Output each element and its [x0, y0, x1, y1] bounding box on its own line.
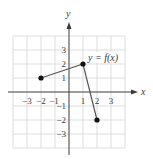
x-axis-arrow-icon: [131, 90, 138, 95]
x-tick-label: 1: [81, 96, 86, 106]
y-tick-label: −3: [56, 129, 66, 139]
y-axis-arrow-icon: [67, 22, 72, 29]
x-tick-label: 3: [109, 96, 114, 106]
y-tick-label: −1: [56, 101, 66, 111]
function-label: y = f(x): [87, 52, 119, 64]
point-right-endpoint: [94, 117, 99, 122]
x-tick-label: −3: [22, 96, 32, 106]
function-graph: x y −3 −2 −1 1 2 3 3 2 1 −1 −2 −3 y = f(…: [0, 0, 153, 159]
point-vertex: [80, 61, 85, 66]
y-tick-label: 2: [62, 59, 67, 69]
y-tick-label: 1: [62, 73, 67, 83]
x-tick-label: −2: [36, 96, 46, 106]
x-tick-labels: −3 −2 −1 1 2 3: [22, 96, 114, 106]
y-tick-label: −2: [56, 115, 66, 125]
point-left-endpoint: [38, 75, 43, 80]
x-tick-label: 2: [95, 96, 100, 106]
x-axis-label: x: [140, 86, 146, 97]
y-axis-label: y: [65, 8, 71, 19]
y-tick-label: 3: [62, 45, 67, 55]
